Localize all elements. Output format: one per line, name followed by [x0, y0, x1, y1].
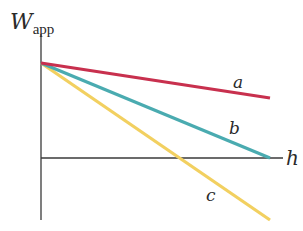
- x-axis-label: h: [286, 146, 299, 170]
- y-axis-label-main: W: [10, 9, 35, 34]
- line-a-label: a: [233, 72, 243, 92]
- y-axis-label-subscript: app: [33, 21, 55, 37]
- line-b-label: b: [229, 118, 240, 138]
- line-c-label: c: [206, 185, 216, 205]
- diagram-canvas: Wapp h a b c: [0, 0, 303, 231]
- y-axis-label: Wapp: [10, 9, 54, 37]
